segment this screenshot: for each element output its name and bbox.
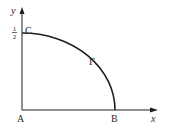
- x-axis-arrow-icon: [150, 108, 158, 113]
- x-axis-label: x: [150, 113, 156, 124]
- y-axis-arrow-icon: [20, 7, 25, 14]
- point-c-label: C: [25, 25, 32, 36]
- y-tick-numerator: 1: [13, 25, 17, 33]
- diagram-canvas: 1 2 y C Γ A B x: [0, 0, 171, 131]
- point-a-label: A: [17, 113, 25, 124]
- y-tick-denominator: 2: [13, 33, 17, 41]
- curve-gamma: [22, 33, 115, 110]
- point-b-label: B: [111, 113, 118, 124]
- curve-gamma-label: Γ: [89, 56, 95, 67]
- y-axis-label: y: [10, 5, 16, 16]
